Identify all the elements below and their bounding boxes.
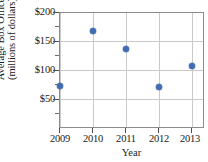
data-point-2010[interactable] xyxy=(90,28,96,34)
gridline-v-2012 xyxy=(159,13,160,127)
y-tick-label-100: $100 xyxy=(25,65,55,76)
data-point-2013[interactable] xyxy=(189,63,195,69)
x-axis-title: Year xyxy=(59,148,204,159)
y-tick-label-150: $150 xyxy=(25,36,55,47)
x-axis-tick-labels: 2009 2010 2011 2012 2013 xyxy=(0,134,208,148)
data-point-2011[interactable] xyxy=(123,46,129,52)
plot-area xyxy=(59,12,204,128)
gridline-v-2011 xyxy=(126,13,127,127)
data-point-2012[interactable] xyxy=(156,84,162,90)
gridline-h-100 xyxy=(60,70,203,71)
gridline-v-2013 xyxy=(192,13,193,127)
y-tick-label-50: $50 xyxy=(25,94,55,105)
gridline-h-150 xyxy=(60,41,203,42)
y-axis-title-line-2: (millions of dollars) xyxy=(6,0,17,95)
y-tick-label-200: $200 xyxy=(25,7,55,18)
data-point-2009[interactable] xyxy=(57,83,63,89)
x-tick-label-2013: 2013 xyxy=(170,134,208,145)
scatter-chart: Average Box Office (millions of dollars)… xyxy=(0,0,208,162)
gridline-h-50 xyxy=(60,99,203,100)
